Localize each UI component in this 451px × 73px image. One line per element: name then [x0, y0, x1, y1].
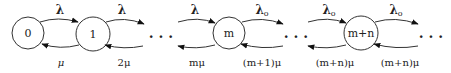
arrow-forward-mn-dots — [375, 19, 418, 24]
rate-forward-3: λo — [255, 3, 268, 18]
state-1: 1 — [76, 17, 110, 51]
state-m: m — [213, 17, 245, 49]
rate-backward-2: mμ — [189, 57, 205, 68]
state-1-label: 1 — [90, 28, 97, 41]
state-0-label: 0 — [25, 27, 32, 40]
rate-backward-3: (m+1)μ — [243, 57, 282, 68]
arrow-forward-0-1 — [40, 19, 78, 22]
rate-backward-1: 2μ — [118, 57, 131, 68]
arrow-backward-1-0 — [42, 44, 79, 47]
arrow-backward-dots-m — [241, 44, 283, 48]
state-m-label: m — [224, 27, 235, 40]
arrow-backward-dots-1 — [105, 45, 143, 48]
rate-forward-1: λ — [118, 3, 126, 17]
state-0: 0 — [12, 17, 44, 49]
ellipsis-3: · · · — [419, 29, 443, 45]
ellipsis-2: · · · — [284, 29, 308, 45]
arrow-forward-dots-mn — [308, 19, 346, 23]
rate-backward-5: (m+n)μ — [381, 57, 420, 68]
arrow-backward-m-dots — [178, 45, 215, 48]
state-transition-diagram: 0 1 m m+n · · · · · · · · · λ λ λ λo λo … — [0, 0, 451, 73]
arrow-backward-dots-mn — [374, 44, 418, 48]
arrow-forward-1-dots — [106, 19, 144, 24]
ellipsis-1: · · · — [149, 29, 173, 45]
arrow-forward-m-dots — [242, 19, 283, 24]
rate-backward-4: (m+n)μ — [316, 57, 355, 68]
arrow-forward-dots-m — [178, 19, 215, 23]
rate-forward-2: λ — [191, 3, 199, 17]
state-m-plus-n: m+n — [344, 16, 378, 50]
arrow-backward-mn-dots — [308, 45, 346, 48]
rate-forward-5: λo — [389, 3, 402, 18]
rate-backward-0: μ — [58, 57, 65, 68]
rate-forward-4: λo — [322, 3, 335, 18]
rate-forward-0: λ — [56, 3, 64, 17]
state-m-plus-n-label: m+n — [348, 27, 375, 40]
